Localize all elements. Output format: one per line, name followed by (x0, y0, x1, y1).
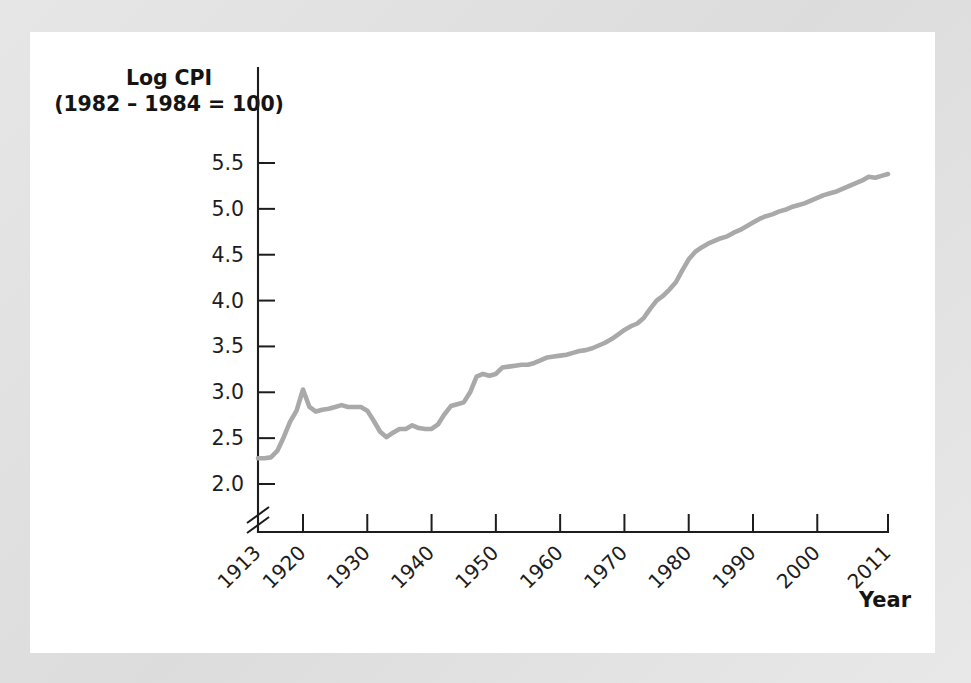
cpi-series-line (258, 174, 888, 458)
x-axis-label: Year (859, 588, 911, 612)
y-tick-label: 5.0 (211, 197, 244, 221)
y-tick-label: 2.5 (211, 426, 244, 450)
y-tick-marks (258, 163, 275, 484)
x-tick-labels: 1913192019301940195019601970198019902000… (213, 541, 896, 594)
y-tick-label: 3.5 (211, 334, 244, 358)
x-tick-label: 1920 (258, 541, 311, 594)
y-tick-label: 5.5 (211, 151, 244, 175)
y-tick-label: 4.0 (211, 289, 244, 313)
chart-panel: Log CPI (1982 – 1984 = 100) 2.02.53.03.5… (30, 32, 935, 653)
x-tick-label: 1980 (643, 541, 696, 594)
y-axis-group: 2.02.53.03.54.04.55.05.5 (211, 68, 275, 533)
x-tick-label: 1970 (579, 541, 632, 594)
y-tick-label: 2.0 (211, 472, 244, 496)
x-tick-label: 2000 (772, 541, 825, 594)
x-tick-label: 1950 (450, 541, 503, 594)
line-chart-plot: 2.02.53.03.54.04.55.05.5 191319201930194… (30, 32, 935, 653)
x-tick-marks (258, 514, 888, 532)
x-tick-label: 1913 (213, 541, 266, 594)
x-tick-label: 1960 (515, 541, 568, 594)
y-tick-labels: 2.02.53.03.54.04.55.05.5 (211, 151, 244, 496)
x-tick-label: 2011 (843, 541, 896, 594)
figure-frame: Log CPI (1982 – 1984 = 100) 2.02.53.03.5… (0, 0, 971, 683)
x-tick-label: 1940 (386, 541, 439, 594)
x-axis-group: 1913192019301940195019601970198019902000… (213, 514, 896, 594)
x-tick-label: 1990 (708, 541, 761, 594)
y-tick-label: 4.5 (211, 243, 244, 267)
y-tick-label: 3.0 (211, 380, 244, 404)
x-tick-label: 1930 (322, 541, 375, 594)
